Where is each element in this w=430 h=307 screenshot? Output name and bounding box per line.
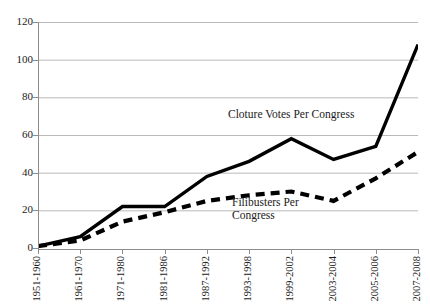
gridlines-group: [38, 23, 418, 249]
x-axis-tick-mark: [207, 249, 208, 254]
x-axis-tick-mark: [80, 249, 81, 254]
x-axis-tick-mark: [165, 249, 166, 254]
x-axis-tick-mark: [418, 249, 419, 254]
x-axis-tick-label: 1961-1970: [74, 256, 85, 302]
series-canvas: [38, 22, 418, 248]
y-axis-tick-mark: [33, 22, 38, 23]
series-annotation-filibusters-line1: Filibusters Per: [232, 196, 299, 209]
y-axis-line: [38, 22, 39, 250]
x-axis-tick-mark: [38, 249, 39, 254]
y-axis-tick-label: 20: [0, 204, 33, 215]
y-axis-tick-label: 100: [0, 54, 33, 65]
y-axis-tick-mark: [33, 173, 38, 174]
y-axis-tick-label: 60: [0, 129, 33, 140]
x-axis-tick-mark: [122, 249, 123, 254]
y-axis-tick-mark: [33, 210, 38, 211]
series-annotation-filibusters: Filibusters Per Congress: [232, 196, 299, 222]
x-axis-tick-label: 1999-2002: [285, 256, 296, 302]
x-axis-line: [38, 249, 419, 250]
plot-area: [38, 22, 418, 248]
x-axis-tick-mark: [376, 249, 377, 254]
x-axis-tick-mark: [334, 249, 335, 254]
y-axis-tick-mark: [33, 135, 38, 136]
x-axis-tick-mark: [291, 249, 292, 254]
x-axis-tick-label: 1993-1998: [243, 256, 254, 302]
x-axis-tick-label: 1951-1960: [32, 256, 43, 302]
line-chart: 020406080100120 1951-19601961-19701971-1…: [0, 0, 430, 307]
x-axis-tick-label: 2007-2008: [412, 256, 423, 302]
series-annotation-cloture-votes: Cloture Votes Per Congress: [228, 108, 354, 121]
x-axis-tick-label: 1981-1986: [159, 256, 170, 302]
y-axis-tick-mark: [33, 60, 38, 61]
series-annotation-filibusters-line2: Congress: [232, 209, 299, 222]
series-line-cloture-votes: [38, 45, 418, 247]
x-axis-tick-label: 1971-1980: [116, 256, 127, 302]
x-axis-tick-label: 1987-1992: [201, 256, 212, 302]
x-axis-tick-label: 2003-2004: [328, 256, 339, 302]
series-line-filibusters: [38, 152, 418, 246]
x-axis-tick-label: 2005-2006: [370, 256, 381, 302]
y-axis-tick-label: 0: [0, 242, 33, 253]
x-axis-tick-mark: [249, 249, 250, 254]
y-axis-tick-label: 80: [0, 91, 33, 102]
y-axis-tick-mark: [33, 97, 38, 98]
y-axis-tick-label: 40: [0, 167, 33, 178]
y-axis-tick-label: 120: [0, 16, 33, 27]
